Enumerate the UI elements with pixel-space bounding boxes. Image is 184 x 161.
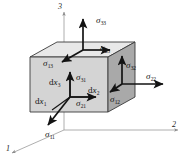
sigma-symbol: σ: [96, 15, 100, 25]
sigma-symbol: σ: [76, 72, 80, 82]
axis-label-3: 3: [58, 3, 62, 11]
dx-subscript: 2: [97, 90, 100, 96]
label-sigma-11-front: σ11: [45, 130, 54, 139]
sigma-subscript: 22: [151, 76, 156, 82]
sigma-subscript: 32: [131, 65, 136, 71]
label-sigma-13-top: σ13: [43, 59, 53, 68]
sigma-symbol: σ: [126, 60, 130, 70]
sigma-symbol: σ: [76, 98, 80, 108]
dx-symbol: x: [40, 96, 44, 106]
sigma-subscript: 31: [81, 77, 86, 83]
dx-subscript: 3: [58, 82, 61, 88]
sigma-symbol: σ: [100, 43, 104, 53]
dx-subscript: 1: [44, 101, 47, 107]
sigma-symbol: σ: [110, 94, 114, 104]
sigma-subscript: 13: [48, 63, 53, 69]
sigma-symbol: σ: [146, 71, 150, 81]
label-sigma-22-right: σ22: [146, 72, 156, 81]
sigma-subscript: 33: [101, 20, 106, 26]
label-sigma-12-right: σ12: [110, 95, 120, 104]
dx-symbol: x: [54, 77, 58, 87]
axis-label-1: 1: [6, 145, 10, 153]
label-sigma-21-front: σ21: [76, 99, 86, 108]
label-sigma-23-top: σ23: [100, 44, 110, 53]
label-sigma-31-front: σ31: [76, 73, 86, 82]
label-dx-3: dx3: [49, 78, 60, 87]
diagram-canvas: [0, 0, 184, 161]
sigma-symbol: σ: [45, 129, 49, 139]
axis-label-2: 2: [172, 121, 176, 129]
sigma-subscript: 12: [115, 99, 120, 105]
sigma-subscript: 23: [105, 48, 110, 54]
sigma-subscript: 21: [81, 103, 86, 109]
dx-symbol: x: [93, 85, 97, 95]
label-dx-2: dx2: [88, 86, 99, 95]
axis-1-line: [12, 130, 64, 153]
label-sigma-33-top: σ33: [96, 16, 106, 25]
sigma-symbol: σ: [43, 58, 47, 68]
label-sigma-32-right: σ32: [126, 61, 136, 70]
sigma-subscript: 11: [50, 134, 55, 140]
label-dx-1: dx1: [35, 97, 46, 106]
stress-element-diagram: 3 2 1 σ33 σ23 σ13 σ32 σ22 σ12 σ31 σ21 σ1…: [0, 0, 184, 161]
